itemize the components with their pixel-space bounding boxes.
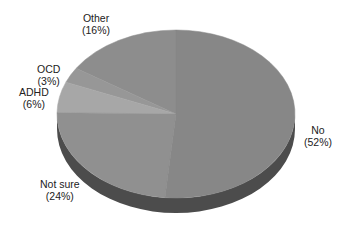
label-ocd-name: OCD [37,63,60,75]
label-other-pct: (16%) [82,24,110,36]
label-no-pct: (52%) [304,136,332,148]
label-no-name: No [304,124,332,136]
label-not-sure-pct: (24%) [40,190,80,202]
label-other: Other (16%) [82,12,110,36]
label-not-sure-name: Not sure [40,178,80,190]
label-adhd-name: ADHD [19,86,49,98]
label-adhd: ADHD (6%) [19,86,49,110]
label-ocd: OCD (3%) [37,63,60,87]
label-not-sure: Not sure (24%) [40,178,80,202]
label-other-name: Other [82,12,110,24]
label-no: No (52%) [304,124,332,148]
pie-slices [57,30,295,198]
label-adhd-pct: (6%) [19,98,49,110]
